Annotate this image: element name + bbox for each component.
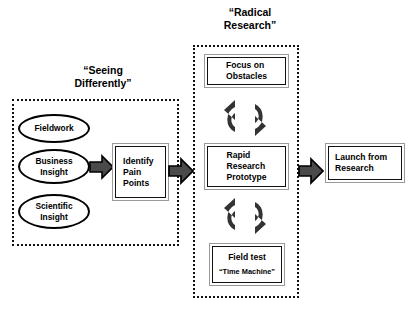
process-box-field-test-label: Field test xyxy=(228,252,266,263)
process-box-inner: Identify Pain Points xyxy=(115,146,166,198)
cycle-arrows-rapid-to-field-test-icon xyxy=(219,194,271,238)
input-ellipse-business-insight[interactable]: Business Insight xyxy=(18,149,90,184)
process-box-rapid-research-prototype[interactable]: Rapid Research Prototype xyxy=(204,143,289,190)
process-box-identify-pain-points-label: Identify Pain Points xyxy=(116,156,165,189)
process-box-focus-on-obstacles-label: Focus on Obstacles xyxy=(226,60,267,82)
process-box-field-test-sublabel: “Time Machine” xyxy=(219,267,275,277)
process-box-field-test[interactable]: Field test “Time Machine” xyxy=(209,243,285,286)
process-box-identify-pain-points[interactable]: Identify Pain Points xyxy=(112,143,169,201)
process-box-launch-from-research-label: Launch from Research xyxy=(329,152,401,174)
process-box-rapid-research-prototype-label: Rapid Research Prototype xyxy=(226,150,266,183)
diagram-canvas: “Seeing Differently” “Radical Research” … xyxy=(0,0,415,310)
block-arrow-radical-to-launch-icon xyxy=(298,157,324,185)
group-title-radical-research: “Radical Research” xyxy=(196,6,304,32)
process-box-inner: Rapid Research Prototype xyxy=(207,146,286,187)
input-ellipse-fieldwork[interactable]: Fieldwork xyxy=(18,114,90,143)
process-box-inner: Focus on Obstacles xyxy=(207,57,286,85)
cycle-arrows-focus-to-rapid-icon xyxy=(219,96,271,140)
input-ellipse-scientific-insight[interactable]: Scientific Insight xyxy=(18,194,90,229)
process-box-inner: Field test “Time Machine” xyxy=(212,246,282,283)
process-box-focus-on-obstacles[interactable]: Focus on Obstacles xyxy=(204,54,289,88)
block-arrow-seeing-to-radical-icon xyxy=(168,157,194,185)
process-box-launch-from-research[interactable]: Launch from Research xyxy=(325,143,405,183)
process-box-inner: Launch from Research xyxy=(328,146,402,180)
block-arrow-inputs-to-identify-icon xyxy=(89,154,114,180)
group-title-seeing-differently: “Seeing Differently” xyxy=(42,64,164,90)
